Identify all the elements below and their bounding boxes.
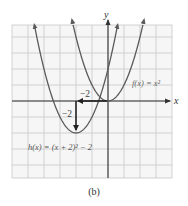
shift-down-label: −2 (62, 109, 72, 119)
curve-arrowhead-icon (117, 25, 118, 29)
f-label: f(x) = x² (132, 78, 161, 88)
h-label: h(x) = (x + 2)² − 2 (28, 142, 93, 152)
figure-caption: (b) (0, 186, 188, 197)
curve-arrowhead-icon (72, 20, 73, 24)
graph-figure: x y −2 −2 f(x) = x² h(x) = (x + 2)² − 2 (0, 0, 188, 206)
curve-arrowhead-icon (143, 20, 144, 24)
curve-arrowhead-icon (34, 25, 35, 29)
y-axis-label: y (103, 9, 109, 20)
x-axis-label: x (173, 95, 179, 106)
shift-left-label: −2 (80, 89, 90, 99)
